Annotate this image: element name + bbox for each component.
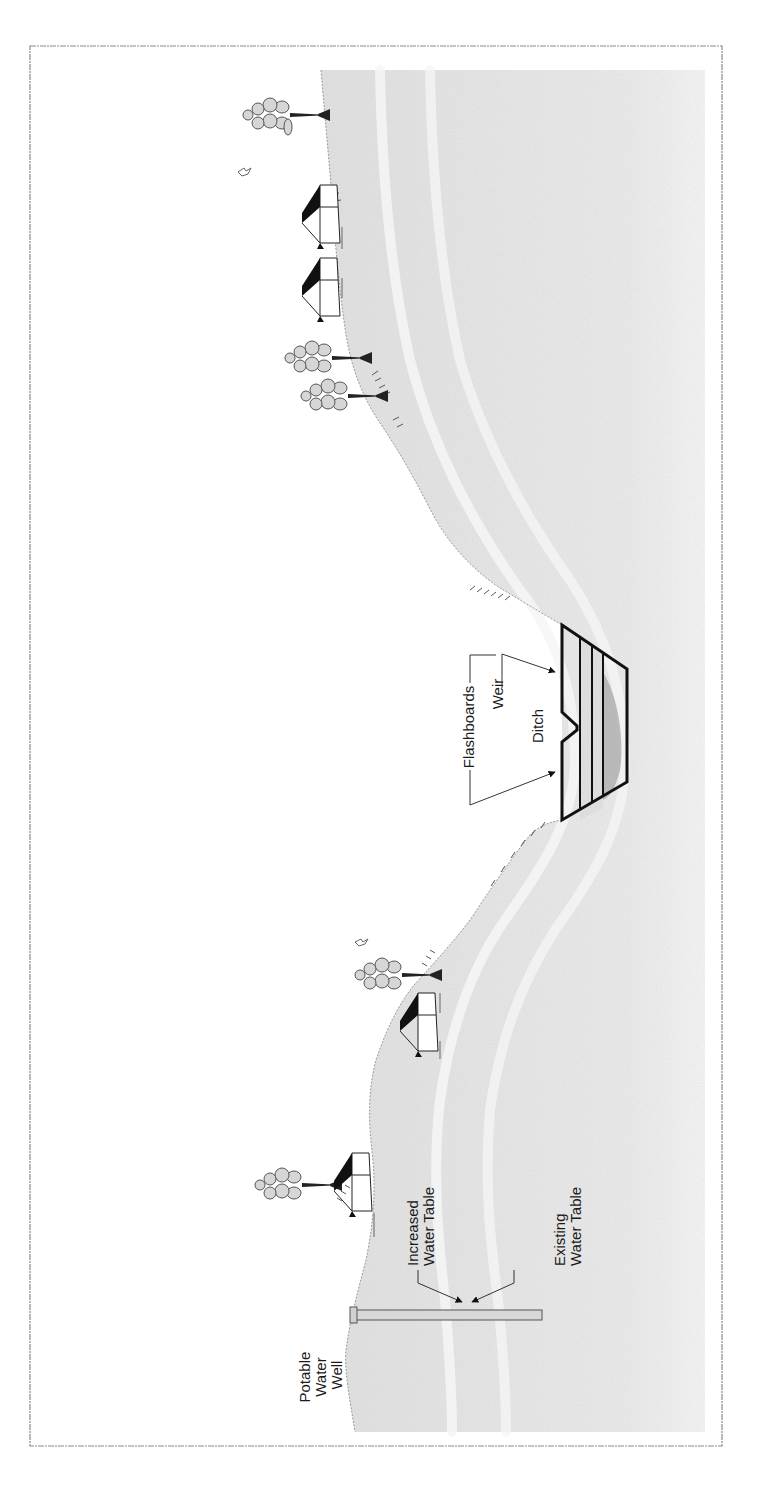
flashboards-leader-b — [470, 770, 555, 805]
house-icon — [302, 258, 342, 322]
label-potable-water-well: Potable Water Well — [296, 1347, 345, 1402]
tree-icon — [255, 1168, 342, 1199]
well-casing — [356, 1310, 542, 1320]
house-icon — [302, 185, 342, 249]
label-flashboards: Flashboards — [460, 686, 477, 769]
label-increased-water-table: Increased Water Table — [404, 1187, 437, 1266]
bird-icon — [355, 939, 368, 946]
ground-cross-section — [321, 70, 705, 1432]
bird-icon — [238, 168, 251, 176]
weir-leader — [502, 654, 555, 688]
label-weir: Weir — [489, 679, 506, 710]
tree-icon — [243, 98, 330, 135]
house-icon — [334, 1153, 374, 1237]
water-control-structure-diagram: Potable Water Well Increased Water Table… — [0, 0, 758, 1492]
label-ditch: Ditch — [529, 709, 546, 743]
well-cap — [350, 1307, 357, 1323]
